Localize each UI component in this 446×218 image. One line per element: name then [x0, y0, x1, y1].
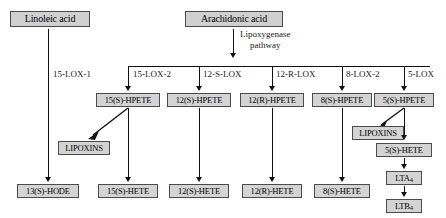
- arrowhead-12-r-hete: [269, 177, 275, 182]
- enzyme-label-12-s-lox: 12-S-LOX: [203, 69, 242, 80]
- lta4-label: LTA: [395, 174, 410, 183]
- lipoxygenase-pathway-diagram: Linoleic acid Arachidonic acid Lipoxygen…: [0, 0, 446, 218]
- arrow-15hpete-to-lipoxins: [80, 105, 136, 145]
- pathway-label-line2: pathway: [240, 40, 290, 51]
- node-15-s-hete: 15(S)-HETE: [98, 184, 158, 198]
- enzyme-label-5-lox: 5-LOX: [408, 69, 434, 80]
- arrowhead-15-s-hete: [125, 177, 131, 182]
- arrowhead-12-r-lox: [269, 86, 275, 91]
- enzyme-label-15-lox-2: 15-LOX-2: [133, 69, 171, 80]
- arrowhead-5-s-hete: [401, 135, 407, 140]
- arrowhead-ltb4: [401, 192, 407, 197]
- ltb4-subscript: 4: [410, 205, 413, 212]
- branch-stem-15-lox-2: [128, 66, 129, 88]
- arrowhead-lta4: [401, 164, 407, 169]
- arrowhead-13-s-hode: [45, 177, 51, 182]
- node-ltb4: LTB4: [386, 199, 422, 213]
- branch-stem-12-r-lox: [272, 66, 273, 88]
- ltb4-label: LTB: [395, 202, 410, 211]
- arrow-linoleic-to-hode: [48, 29, 49, 179]
- arrow-arachidonic-to-branch: [233, 29, 234, 55]
- node-12-r-hpete: 12(R)-HPETE: [240, 93, 304, 107]
- node-linoleic-acid: Linoleic acid: [10, 11, 90, 27]
- pathway-label-line1: Lipoxygenase: [240, 29, 290, 39]
- node-lipoxins-left: LIPOXINS: [58, 141, 110, 155]
- branch-distribution-bar: [128, 66, 430, 67]
- node-12-r-hete: 12(R)-HETE: [242, 184, 302, 198]
- enzyme-label-12-r-lox: 12-R-LOX: [276, 69, 316, 80]
- arrowhead-15-lox-2: [125, 86, 131, 91]
- node-8-s-hete: 8(S)-HETE: [314, 184, 370, 198]
- branch-stem-12-s-lox: [199, 66, 200, 88]
- arrow-12rhpete-to-12rhete: [272, 108, 273, 179]
- enzyme-label-15-lox-1: 15-LOX-1: [53, 69, 91, 80]
- arrowhead-12-s-lox: [196, 86, 202, 91]
- arrowhead-8-s-hete: [339, 177, 345, 182]
- arrow-12shpete-to-12shete: [199, 108, 200, 179]
- node-arachidonic-acid: Arachidonic acid: [185, 11, 283, 27]
- arrow-5hpete-to-5hete: [404, 108, 405, 137]
- arrowhead-8-lox-2: [339, 86, 345, 91]
- node-5-s-hete: 5(S)-HETE: [376, 143, 432, 157]
- arrowhead-pathway: [230, 53, 236, 58]
- node-lipoxins-right: LIPOXINS: [352, 126, 404, 140]
- node-lta4: LTA4: [386, 171, 422, 185]
- enzyme-label-8-lox-2: 8-LOX-2: [346, 69, 380, 80]
- node-13-s-hode: 13(S)-HODE: [17, 184, 79, 198]
- arrowhead-5-lox: [401, 86, 407, 91]
- node-8-s-hpete: 8(S)-HPETE: [312, 93, 372, 107]
- arrowhead-12-s-hete: [196, 177, 202, 182]
- branch-stem-5-lox: [404, 66, 405, 88]
- branch-stem-8-lox-2: [342, 66, 343, 88]
- node-12-s-hpete: 12(S)-HPETE: [167, 93, 231, 107]
- label-lipoxygenase-pathway: Lipoxygenase pathway: [240, 29, 290, 50]
- lta4-subscript: 4: [410, 177, 413, 184]
- node-12-s-hete: 12(S)-HETE: [169, 184, 229, 198]
- arrow-8shpete-to-8shete: [342, 108, 343, 179]
